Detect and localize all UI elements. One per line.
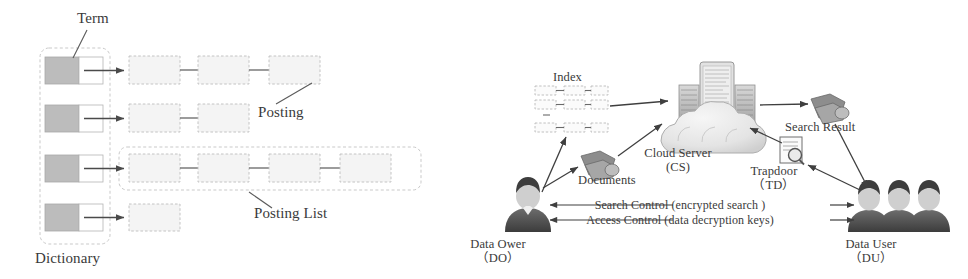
inverted-index-diagram: Term Posting Posting List Dictionary xyxy=(0,0,430,279)
flow-cloud-to-searchresult xyxy=(760,104,808,105)
cloud-server-label: Cloud Server (CS) xyxy=(644,146,712,174)
posting-box xyxy=(269,56,320,84)
cloud-search-architecture-diagram: Index Cloud Server (CS) Documents Search… xyxy=(430,0,968,279)
term-cell-1 xyxy=(45,57,79,84)
cloud-server-name: Cloud Server xyxy=(644,146,712,160)
person-icon xyxy=(505,177,551,232)
cloud-server-abbrev: (CS) xyxy=(644,160,712,174)
posting-box xyxy=(129,104,180,132)
term-cell-2 xyxy=(45,105,79,132)
posting-box xyxy=(198,154,249,182)
trapdoor-name: Trapdoor xyxy=(751,164,798,178)
inverted-index-svg xyxy=(0,0,430,279)
posting-list-label: Posting List xyxy=(254,205,327,222)
posting-box xyxy=(269,154,320,182)
three-people-icon xyxy=(848,180,950,232)
term-leader-line xyxy=(73,30,87,58)
term-cell-3 xyxy=(45,155,79,182)
index-label: Index xyxy=(553,70,582,84)
search-control-label: Search Control (encrypted search ) xyxy=(595,199,766,212)
flow-index-to-cloud xyxy=(610,101,668,106)
posting-box xyxy=(129,56,180,84)
figure-root: Term Posting Posting List Dictionary xyxy=(0,0,968,279)
posting-row-4 xyxy=(129,204,180,231)
posting-box xyxy=(198,104,249,132)
posting-box xyxy=(198,56,249,84)
access-control-label: Access Control (data decryption keys) xyxy=(586,214,774,227)
data-user-abbrev: （DU） xyxy=(845,251,896,265)
term-label: Term xyxy=(77,10,109,27)
posting-box xyxy=(129,154,180,182)
flow-user-to-trapdoor xyxy=(808,165,860,190)
term-cell-4 xyxy=(45,204,79,231)
data-user-name: Data User xyxy=(845,237,896,251)
posting-row-1 xyxy=(129,56,320,84)
posting-box xyxy=(340,154,391,182)
trapdoor-abbrev: （TD） xyxy=(751,178,798,192)
index-grid-icon xyxy=(535,86,608,132)
data-owner-abbrev: （DO） xyxy=(470,251,525,265)
posting-box xyxy=(129,204,180,231)
trapdoor-label: Trapdoor （TD） xyxy=(751,164,798,192)
data-owner-label: Data Ower （DO） xyxy=(470,237,525,265)
posting-leader-line xyxy=(276,83,312,104)
data-owner-name: Data Ower xyxy=(470,237,525,251)
posting-row-3 xyxy=(129,154,391,182)
posting-label: Posting xyxy=(258,104,304,121)
documents-label: Documents xyxy=(578,173,636,187)
document-magnifier-icon xyxy=(780,137,804,165)
flow-owner-to-index xyxy=(542,137,566,192)
dictionary-label: Dictionary xyxy=(35,250,100,267)
posting-row-2 xyxy=(129,104,249,132)
search-result-label: Search Result xyxy=(785,120,855,134)
data-user-label: Data User （DU） xyxy=(845,237,896,265)
cloud-server-icon xyxy=(661,62,766,153)
